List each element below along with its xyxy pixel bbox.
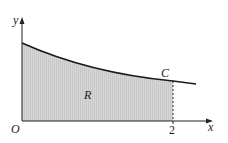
graph: y x O 2 C R <box>0 0 228 143</box>
y-axis-arrow-icon <box>20 17 25 24</box>
y-axis-label: y <box>12 13 19 27</box>
x-axis-label: x <box>207 120 214 134</box>
origin-label: O <box>11 122 20 136</box>
region-r <box>22 43 173 121</box>
region-label-r: R <box>83 88 92 102</box>
x-tick-label-2: 2 <box>169 123 175 137</box>
curve-label-c: C <box>161 66 170 80</box>
